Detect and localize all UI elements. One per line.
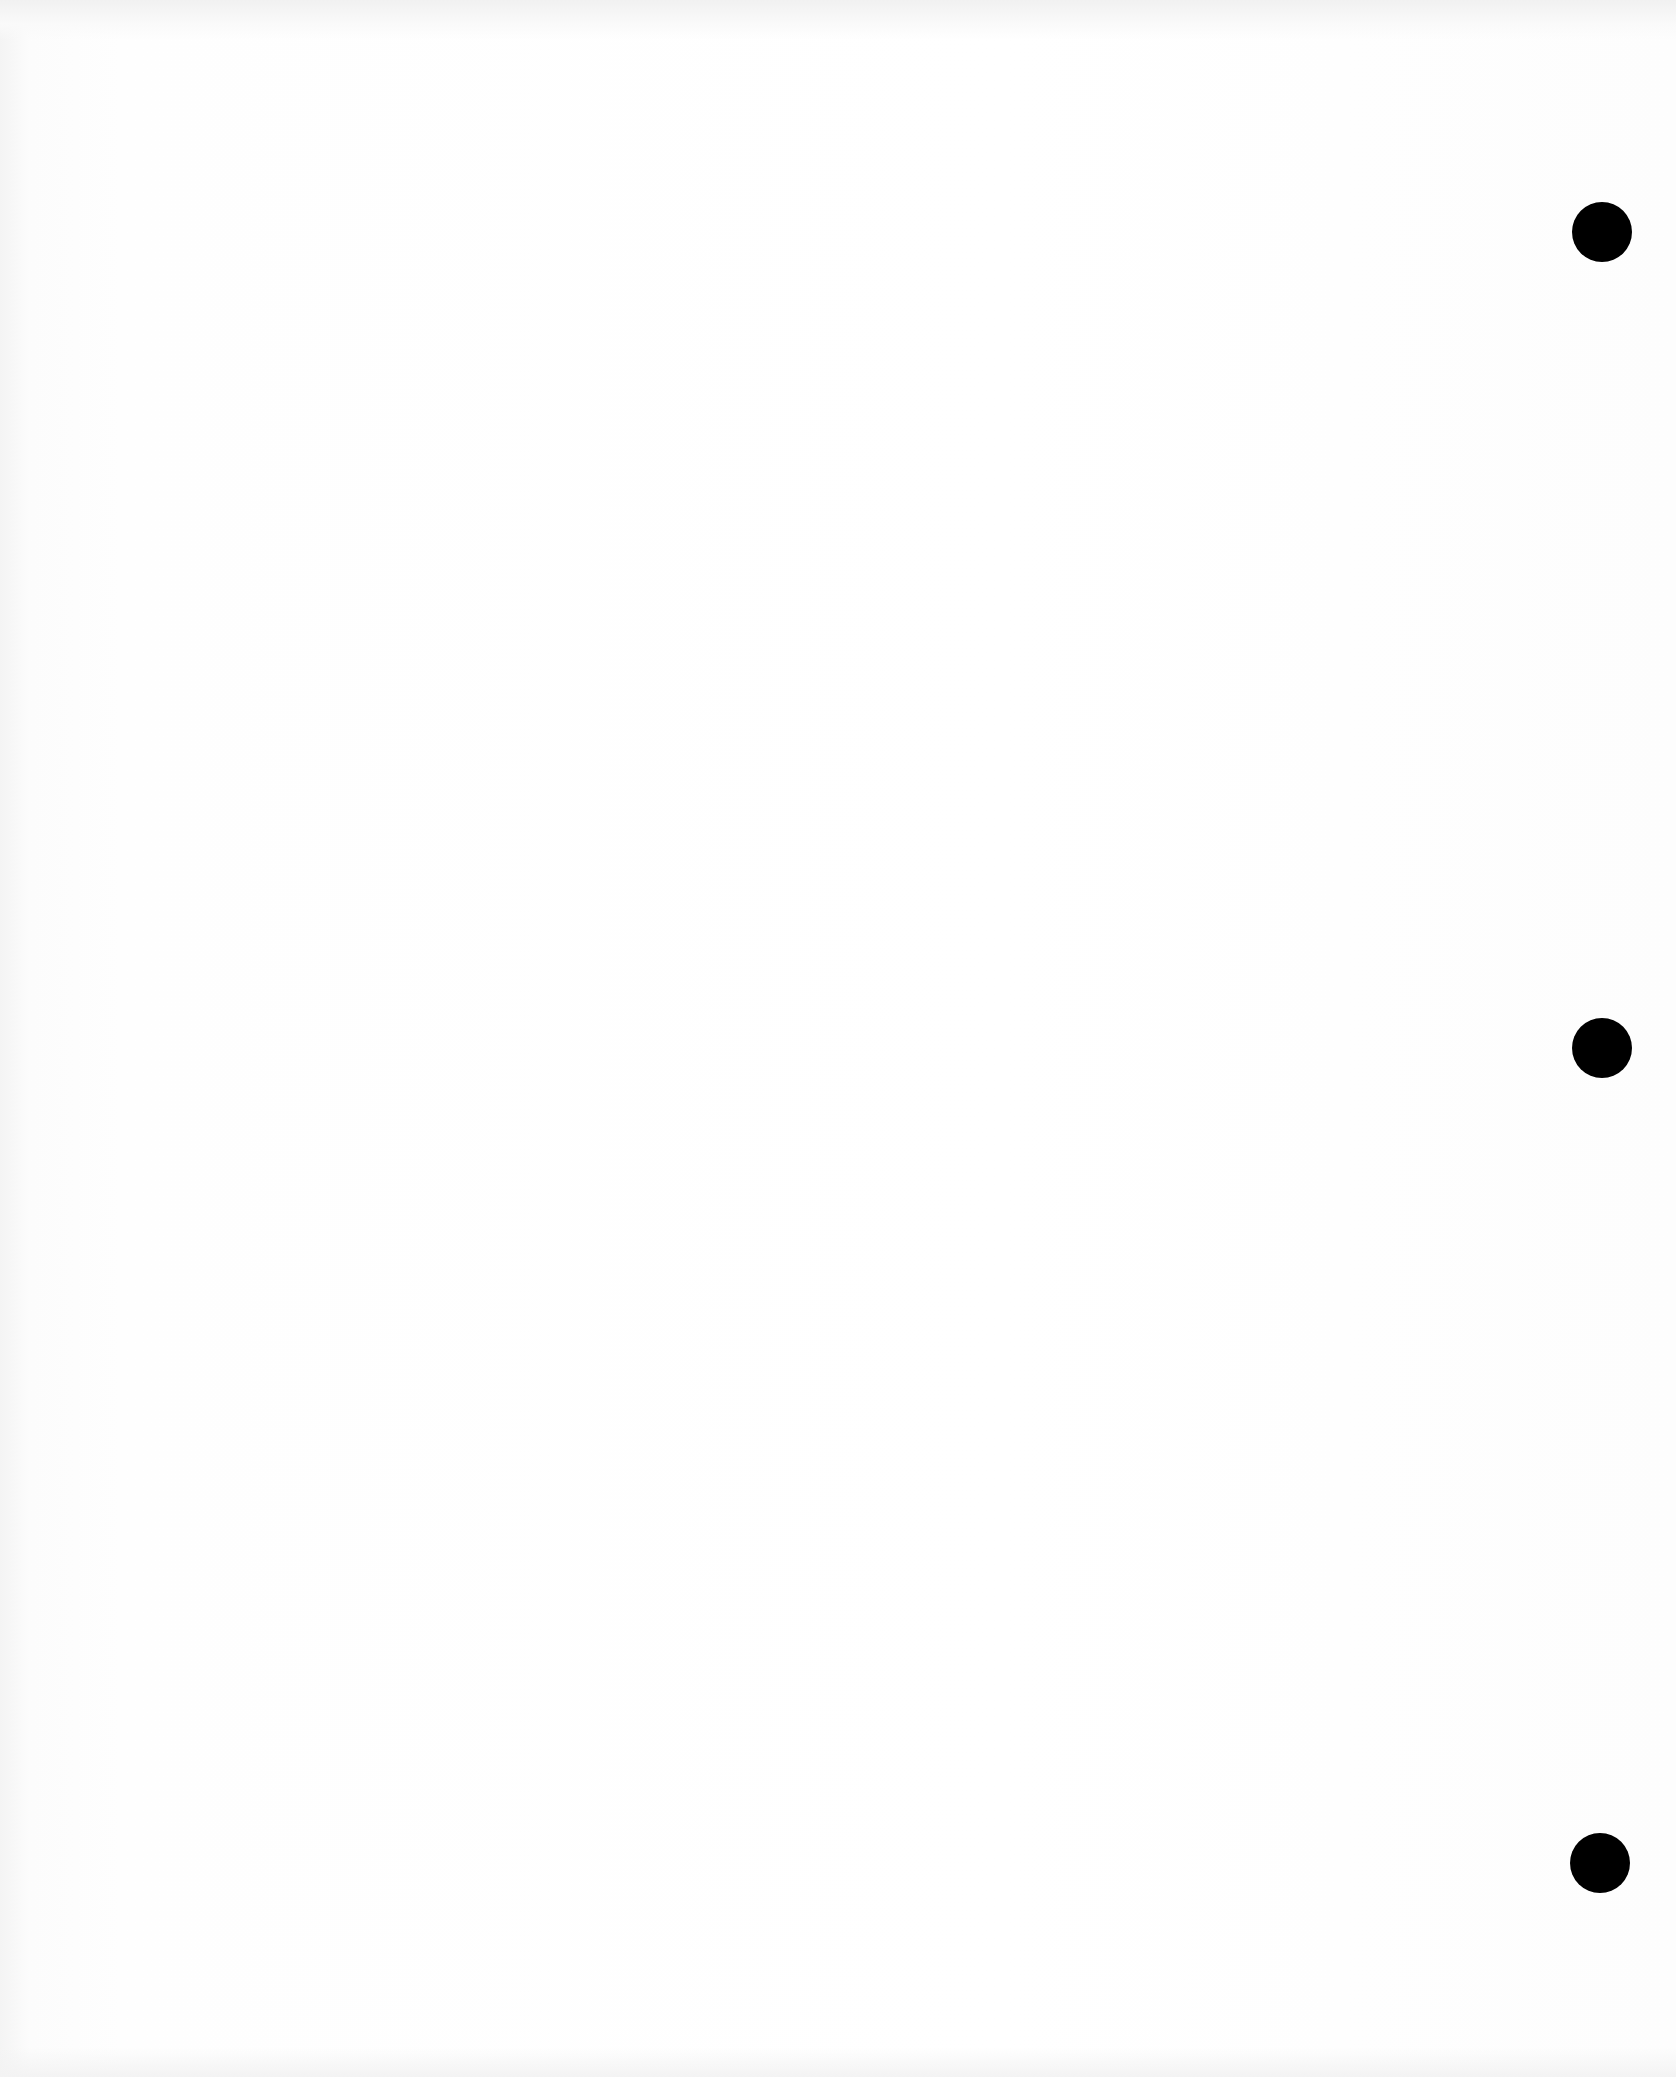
- blank-page: [0, 0, 1676, 2077]
- scan-top-edge: [0, 0, 1676, 40]
- punch-hole-top: [1572, 202, 1632, 262]
- punch-hole-bottom: [1570, 1833, 1630, 1893]
- scan-bottom-edge: [0, 2047, 1676, 2077]
- punch-hole-middle: [1572, 1018, 1632, 1078]
